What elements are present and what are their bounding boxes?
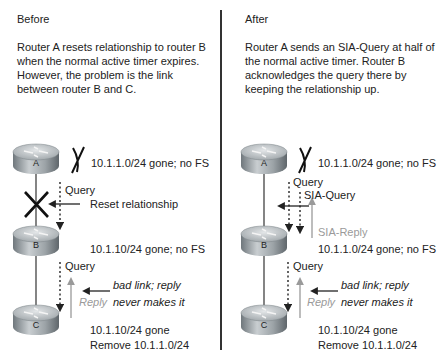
router-label: B	[261, 240, 267, 250]
router-a-note: 10.1.1.0/24 gone; no FS	[318, 157, 436, 169]
query-label: Query	[293, 260, 323, 272]
bad-link-note: never makes it	[113, 296, 185, 308]
sia-query-label: SIA-Query	[304, 189, 355, 201]
router-label: A	[33, 158, 39, 168]
router-label: C	[261, 320, 268, 330]
after-description: Router A sends an SIA-Query at half of t…	[245, 40, 441, 96]
router-c-note: 10.1.10/24 gone	[318, 324, 398, 336]
query-label: Query	[65, 184, 95, 196]
router-b-note: 10.1.10/24 gone; no FS	[90, 243, 205, 255]
router-b-note: 10.1.1.0/24 gone; no FS	[318, 243, 436, 255]
bad-link-note: bad link; reply	[113, 279, 181, 291]
router-label: B	[33, 240, 39, 250]
bad-link-note: never makes it	[341, 296, 413, 308]
sia-reply-label: SIA-Reply	[318, 226, 368, 238]
reset-label: Reset relationship	[90, 198, 178, 210]
route-gone-mark-icon	[299, 147, 311, 173]
router-a-note: 10.1.1.0/24 gone; no FS	[91, 157, 209, 169]
before-description: Router A resets relationship to router B…	[17, 40, 217, 96]
router-c-note: 10.1.10/24 gone	[90, 324, 170, 336]
router-c-note: Remove 10.1.1.0/24	[318, 339, 417, 351]
after-title: After	[245, 13, 268, 25]
router-c-note: Remove 10.1.1.0/24	[90, 339, 189, 351]
panel-divider	[220, 10, 222, 350]
bad-link-note: bad link; reply	[341, 279, 409, 291]
route-gone-mark-icon	[72, 147, 84, 173]
router-label: C	[33, 320, 40, 330]
reply-label: Reply	[79, 296, 107, 308]
before-title: Before	[17, 13, 49, 25]
reply-label: Reply	[307, 296, 335, 308]
query-label: Query	[293, 176, 323, 188]
query-label: Query	[65, 260, 95, 272]
router-label: A	[261, 158, 267, 168]
